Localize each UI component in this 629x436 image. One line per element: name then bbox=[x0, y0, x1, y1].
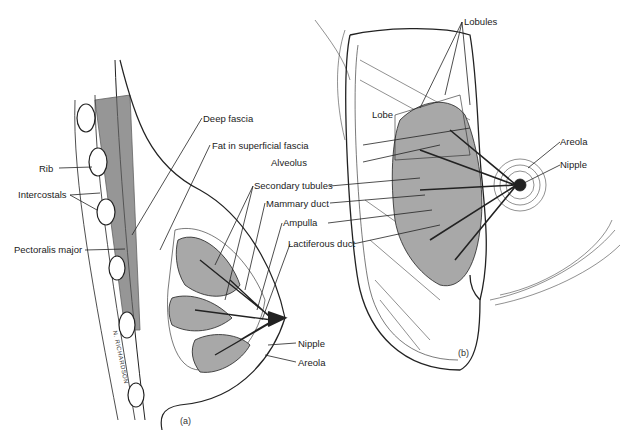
label-alveolus: Alveolus bbox=[271, 158, 307, 168]
label-areola-b: Areola bbox=[560, 137, 587, 147]
label-fat-superficial-fascia: Fat in superficial fascia bbox=[212, 141, 309, 151]
label-lobe: Lobe bbox=[372, 110, 393, 120]
caption-b: (b) bbox=[458, 348, 469, 358]
label-intercostals: Intercostals bbox=[18, 190, 67, 200]
label-lobules: Lobules bbox=[464, 17, 497, 27]
label-areola-a: Areola bbox=[298, 358, 325, 368]
label-lactiferous-duct: Lactiferous duct bbox=[288, 239, 355, 249]
caption-a: (a) bbox=[180, 416, 191, 426]
label-secondary-tubules: Secondary tubules bbox=[254, 181, 333, 191]
label-mammary-duct: Mammary duct bbox=[266, 199, 329, 209]
label-nipple-a: Nipple bbox=[298, 339, 325, 349]
label-ampulla: Ampulla bbox=[283, 218, 317, 228]
label-nipple-b: Nipple bbox=[560, 160, 587, 170]
label-deep-fascia: Deep fascia bbox=[203, 114, 253, 124]
label-pectoralis-major: Pectoralis major bbox=[14, 245, 82, 255]
label-rib: Rib bbox=[39, 164, 53, 174]
